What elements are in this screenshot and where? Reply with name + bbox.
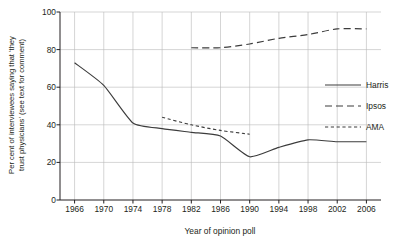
plot-area — [0, 0, 413, 248]
chart-figure: Per cent of interviewees saying that 'th… — [0, 0, 413, 248]
legend-label-ipsos: Ipsos — [366, 101, 386, 111]
legend-label-ama: AMA — [366, 122, 384, 132]
legend-label-harris: Harris — [366, 80, 388, 90]
series-line-ama — [162, 117, 250, 134]
